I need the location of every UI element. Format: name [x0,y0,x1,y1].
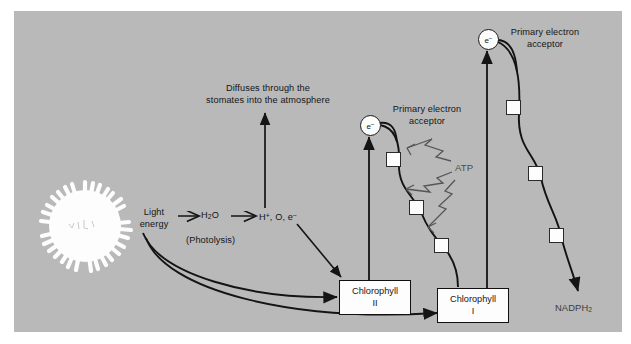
arrow-light-to-chlorophyll-two [143,233,337,297]
acceptor-label-psi: Primary electron acceptor [497,27,593,50]
sun-icon [41,182,131,271]
photolysis-label: (Photolysis) [186,235,235,247]
carrier-square-psi-2 [528,166,543,181]
acceptor-label-psii: Primary electron acceptor [379,104,475,127]
nadph-label: NADPH2 [555,302,592,316]
carrier-square-psii-3 [434,238,449,253]
electron-circle-psi: e− [478,29,499,50]
carrier-chain-psi [498,42,562,240]
chlorophyll-two-box: Chlorophyll II [339,280,411,315]
lightning-bolt-one [407,139,451,161]
light-energy-label: Light energy [131,207,177,230]
photosynthesis-diagram: Diffuses through the stomates into the a… [0,0,631,344]
photolysis-products-label: H+, O, e− [259,210,297,224]
atmosphere-label: Diffuses through the stomates into the a… [189,83,347,106]
carrier-square-psi-3 [549,228,564,243]
arrow-products-to-chlorophyll-two [297,224,341,277]
carrier-square-psi-1 [506,100,521,115]
arrow-to-nadph [562,240,578,291]
chlorophyll-one-box: Chlorophyll I [437,288,509,323]
atp-label: ATP [455,162,473,174]
water-label: H2O [201,210,219,223]
electron-circle-psii: e− [360,115,381,136]
lightning-bolt-three [428,180,455,233]
carrier-square-psii-1 [386,152,401,167]
carrier-square-psii-2 [409,200,424,215]
